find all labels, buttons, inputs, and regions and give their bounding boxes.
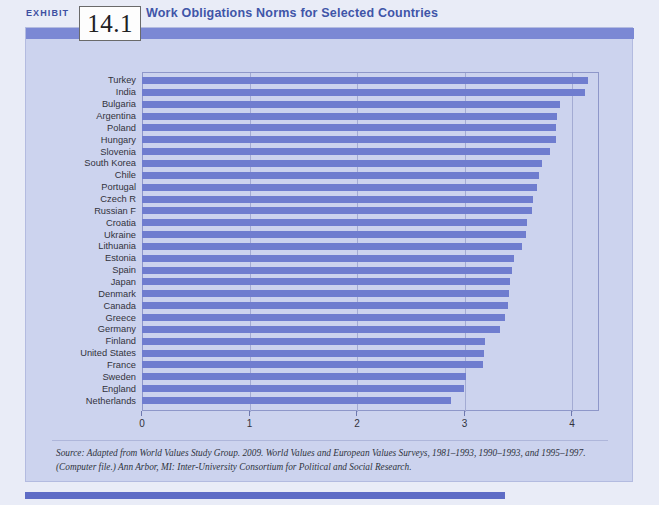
category-label: Bulgaria [102, 100, 136, 109]
category-label: Spain [112, 266, 136, 275]
exhibit-card: TurkeyIndiaBulgariaArgentinaPolandHungar… [25, 27, 633, 482]
category-label: Japan [111, 278, 136, 287]
bar [142, 373, 466, 380]
bar [142, 326, 500, 333]
bar [142, 172, 539, 179]
category-label: Sweden [102, 373, 136, 382]
bar [142, 361, 483, 368]
bar [142, 385, 464, 392]
bar [142, 101, 560, 108]
bar [142, 207, 532, 214]
category-label: South Korea [84, 159, 136, 168]
bar [142, 267, 512, 274]
x-tick-0 [141, 411, 142, 416]
bar [142, 148, 550, 155]
x-axis-label-4: 4 [569, 419, 575, 429]
exhibit-label: EXHIBIT [26, 8, 69, 18]
bar [142, 243, 522, 250]
x-axis-label-3: 3 [462, 419, 468, 429]
x-axis-label-1: 1 [247, 419, 253, 429]
category-label: Portugal [101, 183, 136, 192]
exhibit-number-badge: 14.1 [79, 6, 141, 41]
category-label: England [102, 385, 136, 394]
category-label: Chile [115, 171, 136, 180]
category-label: Canada [103, 302, 136, 311]
category-label: India [116, 88, 136, 97]
y-axis-category-labels: TurkeyIndiaBulgariaArgentinaPolandHungar… [26, 72, 140, 411]
category-label: Ukraine [104, 231, 136, 240]
category-label: United States [80, 349, 136, 358]
category-label: Croatia [106, 219, 136, 228]
category-label: Finland [106, 337, 137, 346]
x-tick-3 [464, 411, 465, 416]
bar [142, 124, 556, 131]
category-label: Netherlands [86, 397, 136, 406]
category-label: Argentina [96, 112, 136, 121]
x-axis-label-0: 0 [139, 419, 145, 429]
bar [142, 160, 542, 167]
bar-series [142, 72, 599, 411]
source-note: Source: Adapted from World Values Study … [56, 446, 616, 475]
bar [142, 350, 484, 357]
exhibit-title: Work Obligations Norms for Selected Coun… [146, 6, 438, 20]
category-label: France [107, 361, 136, 370]
exhibit-number: 14.1 [87, 11, 133, 36]
category-label: Hungary [101, 136, 136, 145]
bar [142, 219, 527, 226]
category-label: Greece [106, 314, 137, 323]
bar [142, 196, 533, 203]
x-tick-2 [356, 411, 357, 416]
bar [142, 278, 510, 285]
footer-bar [25, 492, 505, 499]
category-label: Denmark [98, 290, 136, 299]
category-label: Lithuania [98, 242, 136, 251]
bar-chart: TurkeyIndiaBulgariaArgentinaPolandHungar… [26, 39, 634, 443]
bar [142, 314, 505, 321]
x-axis-label-2: 2 [354, 419, 360, 429]
bar [142, 231, 526, 238]
x-tick-4 [571, 411, 572, 416]
bar [142, 338, 485, 345]
bar [142, 113, 557, 120]
category-label: Turkey [108, 76, 136, 85]
category-label: Poland [107, 124, 136, 133]
category-label: Slovenia [100, 148, 136, 157]
category-label: Russian F [94, 207, 136, 216]
x-tick-1 [249, 411, 250, 416]
category-label: Czech R [100, 195, 136, 204]
category-label: Germany [98, 325, 136, 334]
bar [142, 302, 508, 309]
note-divider [52, 440, 608, 441]
bar [142, 397, 451, 404]
bar [142, 77, 588, 84]
category-label: Estonia [105, 254, 136, 263]
bar [142, 136, 556, 143]
bar [142, 290, 509, 297]
bar [142, 184, 537, 191]
bar [142, 255, 514, 262]
bar [142, 89, 585, 96]
